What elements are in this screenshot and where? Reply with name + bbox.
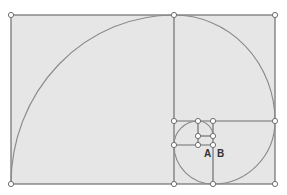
golden-spiral-diagram — [0, 0, 287, 195]
label-a: A — [204, 148, 211, 159]
label-b: B — [217, 148, 224, 159]
outer-rectangle — [11, 15, 275, 184]
